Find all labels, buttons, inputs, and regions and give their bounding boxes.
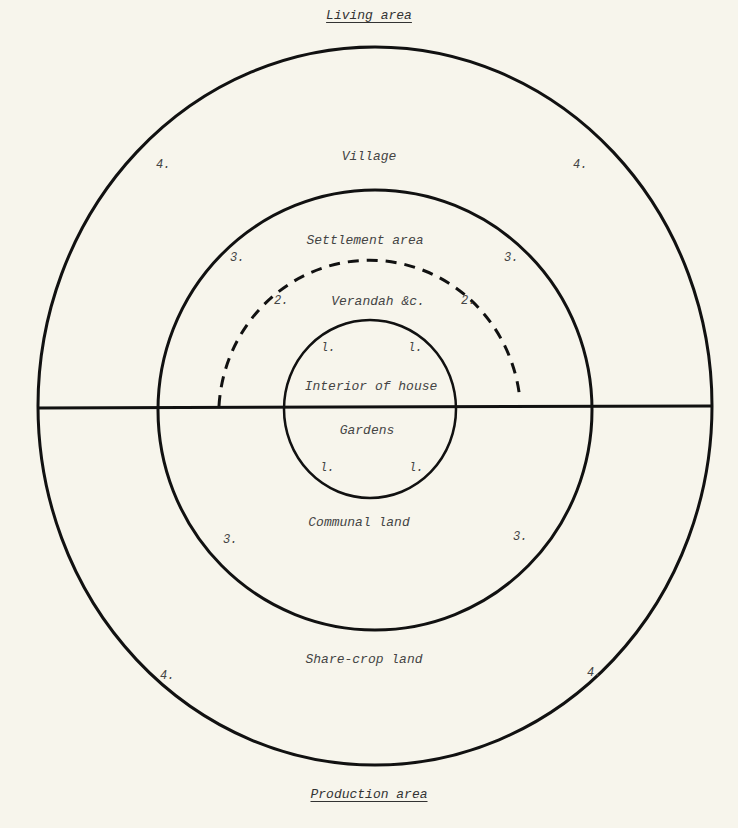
- marker-2-left: 2.: [274, 295, 288, 307]
- zone-label-interior-of-house: Interior of house: [305, 380, 438, 393]
- zone-label-village: Village: [342, 150, 397, 163]
- marker-4-bottom-left: 4.: [160, 670, 174, 682]
- heading-production-area: Production area: [310, 787, 427, 802]
- living-production-divider: [38, 406, 712, 408]
- marker-1-bottom-right: l.: [409, 462, 423, 474]
- marker-3-bottom-right: 3.: [513, 531, 527, 543]
- middle-ring: [158, 190, 592, 630]
- marker-1-top-right: l.: [408, 342, 422, 354]
- marker-1-bottom-left: l.: [320, 462, 334, 474]
- zone-label-gardens: Gardens: [340, 424, 395, 437]
- marker-4-top-left: 4.: [156, 159, 170, 171]
- marker-3-bottom-left: 3.: [223, 534, 237, 546]
- marker-4-top-right: 4.: [573, 159, 587, 171]
- concentric-zones-diagram: [0, 0, 738, 828]
- marker-2-right: 2.: [461, 295, 475, 307]
- zone-label-verandah: Verandah &c.: [331, 295, 425, 308]
- zone-label-communal-land: Communal land: [308, 516, 409, 529]
- heading-living-area: Living area: [326, 8, 412, 23]
- marker-3-top-right: 3.: [504, 252, 518, 264]
- marker-1-top-left: l.: [321, 342, 335, 354]
- marker-3-top-left: 3.: [230, 252, 244, 264]
- marker-4-bottom-right: 4.: [587, 667, 601, 679]
- zone-label-settlement-area: Settlement area: [306, 234, 423, 247]
- inner-ring: [284, 320, 456, 498]
- zone-label-share-crop-land: Share-crop land: [305, 653, 422, 666]
